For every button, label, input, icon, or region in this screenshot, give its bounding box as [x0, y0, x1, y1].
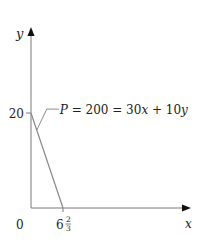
annotation-label-part: + 10: [148, 103, 181, 117]
annotation-label-part: y: [180, 103, 188, 117]
axes: [26, 27, 191, 212]
x-axis-label: x: [185, 217, 192, 231]
x-tick-label-denominator: 3: [66, 224, 71, 233]
x-tick-label-numerator: 2: [66, 215, 71, 224]
y-tick-label: 20: [9, 107, 24, 121]
y-axis-label: y: [15, 26, 24, 41]
annotation-label-part: = 200 = 30: [68, 103, 142, 117]
y-axis-arrow: [28, 27, 35, 36]
annotation-label: P = 200 = 30x + 10y: [59, 103, 188, 117]
chart: yx020623P = 200 = 30x + 10y: [0, 0, 203, 242]
series-line-0: [31, 113, 63, 208]
annotation-leader: [37, 109, 59, 130]
origin-label: 0: [16, 218, 24, 232]
x-tick-label-whole: 6: [56, 218, 64, 232]
x-axis-arrow: [182, 205, 191, 212]
marks: [31, 109, 63, 208]
